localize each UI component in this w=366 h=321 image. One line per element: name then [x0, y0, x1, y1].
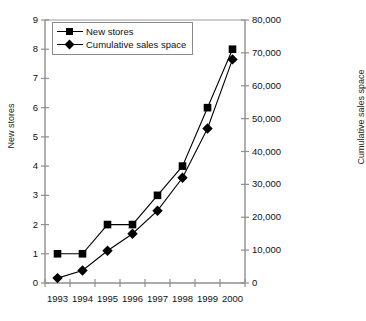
data-point-new-stores: [79, 250, 87, 258]
diamond-marker-icon: [57, 39, 83, 50]
legend-label: Cumulative sales space: [86, 39, 186, 50]
data-point-cumulative-sales-space: [77, 265, 87, 275]
data-point-cumulative-sales-space: [227, 54, 237, 64]
data-point-new-stores: [229, 45, 237, 53]
data-point-cumulative-sales-space: [177, 173, 187, 183]
data-point-new-stores: [54, 250, 62, 258]
data-point-new-stores: [104, 221, 112, 229]
data-point-cumulative-sales-space: [52, 273, 62, 283]
legend-item-cumulative-sales-space: Cumulative sales space: [57, 38, 186, 51]
data-point-cumulative-sales-space: [202, 123, 212, 133]
chart-legend: New stores Cumulative sales space: [52, 22, 193, 55]
legend-item-new-stores: New stores: [57, 25, 186, 38]
square-marker-icon: [57, 26, 83, 37]
data-point-new-stores: [154, 192, 162, 200]
data-point-new-stores: [129, 221, 137, 229]
data-point-cumulative-sales-space: [102, 246, 112, 256]
data-point-new-stores: [179, 162, 187, 170]
legend-label: New stores: [86, 26, 134, 37]
data-point-new-stores: [204, 104, 212, 112]
